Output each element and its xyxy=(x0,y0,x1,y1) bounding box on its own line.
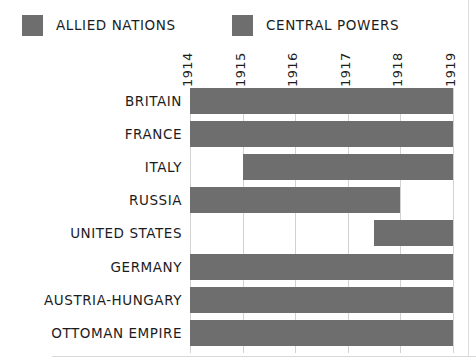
category-label-austria-hungary: AUSTRIA-HUNGARY xyxy=(44,287,182,313)
bar-russia[interactable] xyxy=(190,187,400,213)
legend-label: CENTRAL POWERS xyxy=(266,17,399,33)
timeline-chart-figure: ALLIED NATIONSCENTRAL POWERS 19141915191… xyxy=(0,0,476,363)
gridline-1919 xyxy=(453,88,454,353)
legend-entry-1[interactable]: ALLIED NATIONS xyxy=(22,8,176,42)
category-label-ottoman-empire: OTTOMAN EMPIRE xyxy=(51,320,182,346)
category-label-germany: GERMANY xyxy=(111,254,182,280)
y-axis-category-labels: BRITAINFRANCEITALYRUSSIAUNITED STATESGER… xyxy=(0,88,182,353)
category-label-united-states: UNITED STATES xyxy=(70,220,182,246)
bar-france[interactable] xyxy=(190,121,453,147)
bar-ottoman-empire[interactable] xyxy=(190,320,453,346)
category-label-italy: ITALY xyxy=(145,154,182,180)
bar-united-states[interactable] xyxy=(374,220,453,246)
bar-germany[interactable] xyxy=(190,254,453,280)
x-tick-label-1919: 1919 xyxy=(443,52,458,87)
category-label-russia: RUSSIA xyxy=(129,187,182,213)
color-swatch-icon xyxy=(22,15,43,36)
chart-legend: ALLIED NATIONSCENTRAL POWERS xyxy=(0,8,476,42)
bottom-rule xyxy=(52,356,476,357)
x-tick-label-1917: 1917 xyxy=(338,52,353,87)
x-axis-year-labels: 191419151916191719181919 xyxy=(0,47,476,88)
x-tick-label-1915: 1915 xyxy=(233,52,248,87)
x-tick-label-1916: 1916 xyxy=(285,52,300,87)
x-tick-label-1914: 1914 xyxy=(180,52,195,87)
category-label-france: FRANCE xyxy=(125,121,182,147)
bar-austria-hungary[interactable] xyxy=(190,287,453,313)
right-rule xyxy=(468,0,469,356)
plot-area xyxy=(190,88,453,353)
x-tick-label-1918: 1918 xyxy=(390,52,405,87)
bar-italy[interactable] xyxy=(243,154,453,180)
bar-britain[interactable] xyxy=(190,88,453,114)
color-swatch-icon xyxy=(232,15,253,36)
legend-label: ALLIED NATIONS xyxy=(56,17,176,33)
category-label-britain: BRITAIN xyxy=(125,88,182,114)
legend-entry-2[interactable]: CENTRAL POWERS xyxy=(232,8,399,42)
